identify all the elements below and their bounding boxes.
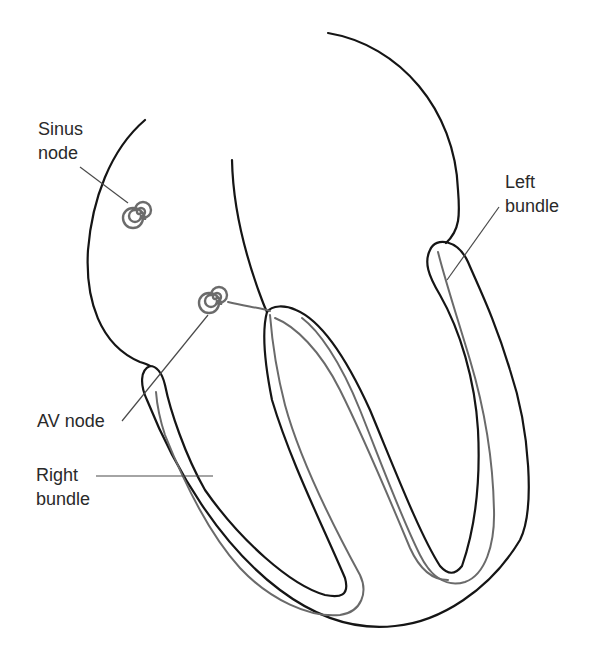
- left-atrium-outline: [328, 33, 459, 243]
- heart-conduction-diagram: Sinus node Left bundle AV node Right bun…: [0, 0, 602, 669]
- left-bundle-leader: [447, 207, 499, 280]
- av-node-label: AV node: [37, 409, 105, 433]
- left-bundle-branch: [302, 252, 494, 583]
- right-bundle-label: Right bundle: [36, 463, 90, 511]
- heart-illustration: [0, 0, 602, 669]
- right-atrium-outline: [88, 120, 150, 366]
- sinus-node-label: Sinus node: [38, 117, 83, 165]
- interatrial-septum-line: [232, 160, 267, 312]
- sinus-node-icon: [123, 202, 151, 228]
- left-bundle-label: Left bundle: [505, 170, 559, 218]
- right-bundle-branch: [156, 315, 363, 615]
- av-node-icon: [199, 287, 227, 313]
- septal-bundle-inner: [275, 318, 448, 580]
- av-node-leader: [122, 315, 208, 421]
- sinus-node-leader: [80, 167, 128, 203]
